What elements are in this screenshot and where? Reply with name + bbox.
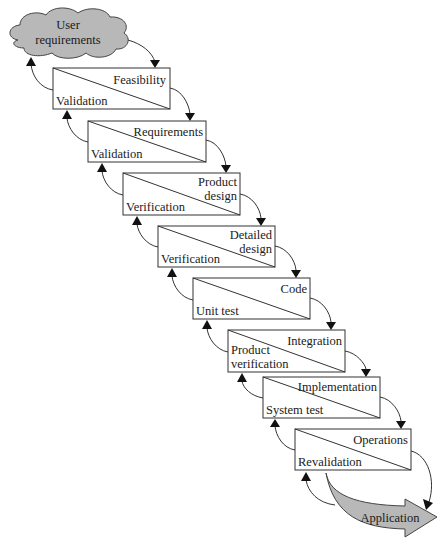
stage-product-design: Product design Verification xyxy=(123,173,240,215)
arrowhead-up-icon xyxy=(167,268,177,277)
flow-arrow-4 xyxy=(275,246,296,270)
stage-name: Integration xyxy=(287,334,343,348)
stage-requirements: Requirements Validation xyxy=(88,121,206,162)
waterfall-diagram: User requirements Feasibility Validation… xyxy=(0,0,441,541)
arrowhead-down-icon xyxy=(423,499,433,510)
arrowhead-down-icon xyxy=(256,218,266,226)
stage-name: Operations xyxy=(353,433,408,447)
flow-arrow-7 xyxy=(380,397,401,421)
stage-detailed-design: Detailed design Verification xyxy=(158,226,275,267)
stage-name: Detailed xyxy=(230,228,273,242)
arrowhead-down-icon xyxy=(326,322,336,330)
flow-arrow-6 xyxy=(345,351,366,369)
stage-check: Verification xyxy=(126,200,186,214)
feedback-arrow-3 xyxy=(137,224,158,247)
feedback-arrow-6 xyxy=(242,381,263,398)
application-label: Application xyxy=(360,511,420,525)
feedback-arrow-5 xyxy=(207,328,228,352)
stage-implementation: Implementation System test xyxy=(263,377,380,418)
arrowhead-down-icon xyxy=(185,113,195,121)
cloud-label-line1: User xyxy=(56,18,80,32)
arrowhead-down-icon xyxy=(396,421,406,429)
stage-check: Validation xyxy=(56,94,108,108)
stage-check: Unit test xyxy=(196,304,239,318)
arrowhead-up-icon xyxy=(270,419,280,427)
stage-integration: Integration Product verification xyxy=(228,330,345,372)
stage-check: System test xyxy=(266,403,324,417)
stage-check: Verification xyxy=(161,252,221,266)
feedback-arrow-2 xyxy=(102,171,123,195)
flow-arrow-5 xyxy=(310,298,331,322)
stage-feasibility: Feasibility Validation xyxy=(53,68,170,109)
arrowhead-down-icon xyxy=(221,165,231,173)
stage-check: Revalidation xyxy=(298,455,363,469)
arrowhead-up-icon xyxy=(62,110,72,119)
stage-check-line2: verification xyxy=(231,357,289,371)
feedback-arrow-4 xyxy=(172,276,193,300)
stage-check: Product xyxy=(231,343,270,357)
arrowhead-down-icon xyxy=(291,270,301,278)
flow-arrow-0 xyxy=(128,40,155,62)
stage-name: Product xyxy=(198,175,237,189)
user-requirements-cloud: User requirements xyxy=(10,8,128,58)
stage-name: Requirements xyxy=(134,125,204,139)
feedback-arrow-7 xyxy=(275,426,295,450)
stage-code: Code Unit test xyxy=(193,278,310,319)
arrowhead-up-icon xyxy=(237,373,247,382)
stage-name: Code xyxy=(281,282,308,296)
stage-name-line2: design xyxy=(204,189,237,203)
flow-arrow-3 xyxy=(240,194,261,218)
arrowhead-up-icon xyxy=(202,320,212,329)
arrowhead-down-icon xyxy=(150,60,160,68)
arrowhead-up-icon xyxy=(301,472,311,481)
stage-check: Validation xyxy=(91,147,143,161)
arrowhead-down-icon xyxy=(361,369,371,377)
stage-name: Feasibility xyxy=(113,73,167,87)
stage-name-line2: design xyxy=(239,242,272,256)
flow-arrow-8 xyxy=(411,451,432,502)
arrowhead-up-icon xyxy=(132,216,142,225)
cloud-label-line2: requirements xyxy=(35,33,100,47)
stage-operations: Operations Revalidation xyxy=(295,429,411,470)
arrowhead-up-icon xyxy=(26,57,36,66)
feedback-arrow-1 xyxy=(67,118,88,142)
arrowhead-up-icon xyxy=(97,163,107,172)
feedback-arrow-0 xyxy=(31,64,53,90)
flow-arrow-1 xyxy=(170,88,190,114)
stage-name: Implementation xyxy=(298,380,378,394)
flow-arrow-2 xyxy=(206,140,226,166)
application-arrow: Application xyxy=(326,473,437,537)
